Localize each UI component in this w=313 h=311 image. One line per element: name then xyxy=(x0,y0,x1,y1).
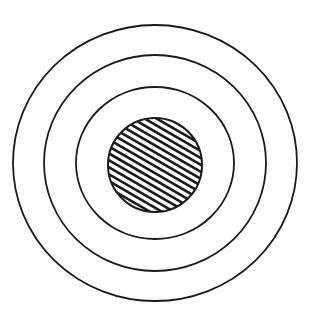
hatched-core xyxy=(49,72,263,254)
concentric-target-diagram xyxy=(0,0,313,311)
hatch-line xyxy=(70,124,233,218)
hatch-line xyxy=(61,140,224,234)
target-svg xyxy=(0,0,313,311)
hatch-line xyxy=(73,119,236,213)
hatch-line xyxy=(94,82,257,176)
hatch-line xyxy=(49,160,212,254)
hatch-line xyxy=(76,114,239,208)
inner-ring xyxy=(76,87,234,239)
hatch-line xyxy=(100,72,263,166)
outer-ring xyxy=(13,25,297,301)
hatch-line xyxy=(88,93,251,187)
hatch-line xyxy=(79,108,242,202)
hatch-line xyxy=(91,88,254,182)
hatch-line xyxy=(64,134,227,228)
hatch-line xyxy=(82,103,245,197)
